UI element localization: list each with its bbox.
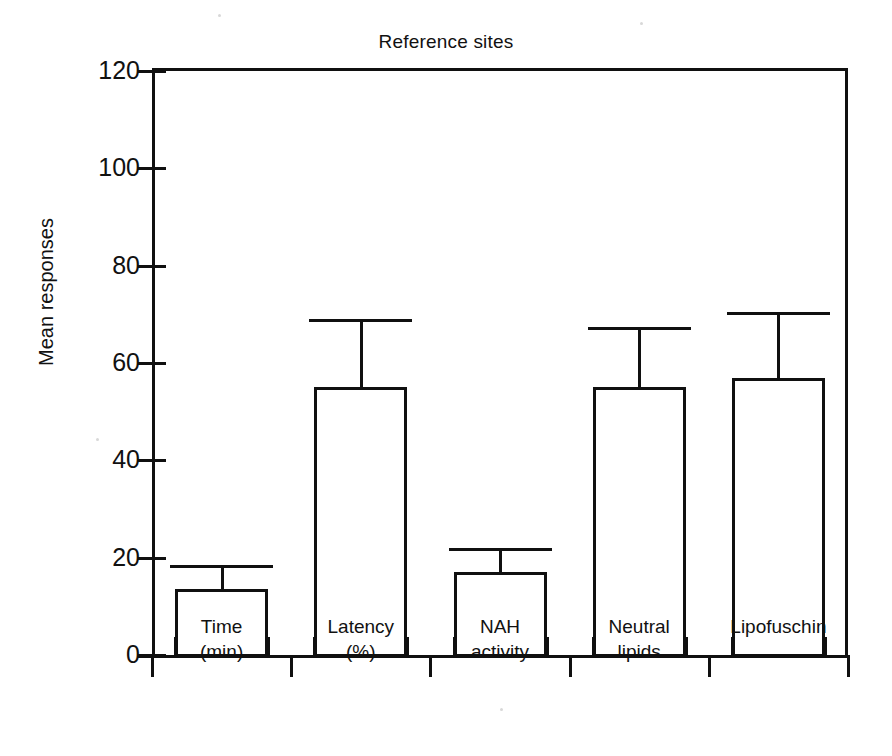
scan-speck xyxy=(218,14,221,17)
x-tick-label: Latency (%) xyxy=(291,614,430,664)
plot-area: 020406080100120 xyxy=(152,71,848,655)
y-tick-label: 80 xyxy=(112,253,140,278)
axis-frame-right xyxy=(845,68,848,658)
error-bar-cap xyxy=(309,319,412,322)
y-tick-label: 120 xyxy=(98,58,140,83)
x-tick-label: NAH activity xyxy=(430,614,569,664)
y-tick-label: 100 xyxy=(98,155,140,180)
y-tick-mark xyxy=(138,167,166,170)
error-bar-stem xyxy=(777,312,780,378)
error-bar-cap xyxy=(727,312,830,315)
x-tick-mark xyxy=(847,655,850,677)
y-tick-mark xyxy=(138,459,166,462)
error-bar-cap xyxy=(588,327,691,330)
error-bar-cap xyxy=(449,548,552,551)
y-tick-mark xyxy=(138,70,166,73)
error-bar-cap xyxy=(170,565,273,568)
error-bar-stem xyxy=(638,327,641,388)
y-tick-mark xyxy=(138,362,166,365)
scan-speck xyxy=(640,22,643,25)
y-tick-label: 60 xyxy=(112,350,140,375)
x-tick-label: Lipofuschin xyxy=(709,614,848,639)
scan-speck xyxy=(500,708,503,711)
figure-bar-chart-reference-sites: Reference sites Mean responses 020406080… xyxy=(0,0,892,756)
y-tick-label: 20 xyxy=(112,545,140,570)
y-axis-label: Mean responses xyxy=(35,218,58,366)
x-tick-label: Neutral lipids xyxy=(570,614,709,664)
y-tick-mark xyxy=(138,557,166,560)
chart-title: Reference sites xyxy=(0,31,892,53)
x-tick-label: Time (min) xyxy=(152,614,291,664)
scan-speck xyxy=(96,438,99,441)
error-bar-stem xyxy=(360,319,363,387)
axis-frame-top xyxy=(152,68,848,71)
error-bar-stem xyxy=(221,565,224,589)
error-bar-stem xyxy=(499,548,502,572)
y-tick-mark xyxy=(138,265,166,268)
y-tick-label: 0 xyxy=(126,642,140,667)
y-tick-label: 40 xyxy=(112,447,140,472)
